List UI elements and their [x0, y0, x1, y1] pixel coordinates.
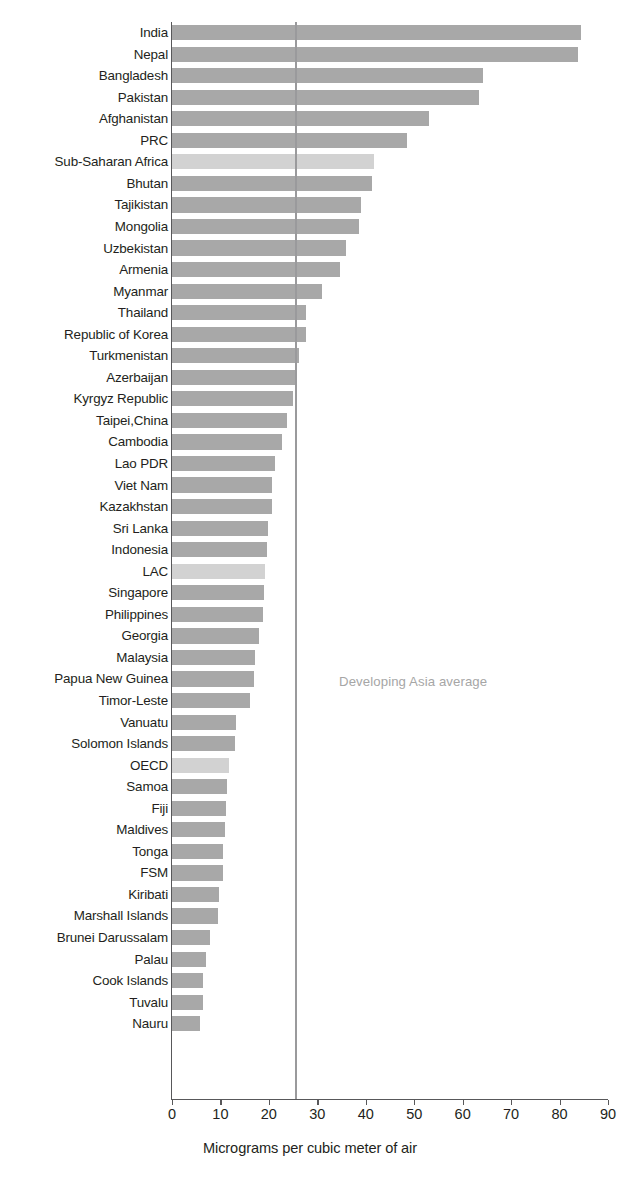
- developing-asia-average-line: [295, 22, 297, 1099]
- category-label: Samoa: [0, 780, 168, 793]
- bar-rows: IndiaNepalBangladeshPakistanAfghanistanP…: [0, 22, 620, 1035]
- bar: [172, 952, 206, 967]
- bar-row: Brunei Darussalam: [0, 927, 620, 949]
- bar: [172, 456, 275, 471]
- category-label: Armenia: [0, 263, 168, 276]
- bar: [172, 197, 361, 212]
- bar: [172, 327, 306, 342]
- bar-track: [172, 345, 620, 367]
- plot-area: IndiaNepalBangladeshPakistanAfghanistanP…: [0, 0, 620, 1180]
- bar-track: [172, 884, 620, 906]
- bar-row: Singapore: [0, 582, 620, 604]
- bar-track: [172, 862, 620, 884]
- bar: [172, 284, 322, 299]
- bar: [172, 413, 287, 428]
- bar: [172, 865, 223, 880]
- category-label: Cambodia: [0, 435, 168, 448]
- category-label: Fiji: [0, 802, 168, 815]
- x-tick-label: 90: [588, 1106, 620, 1123]
- bar-track: [172, 44, 620, 66]
- bar-row: Fiji: [0, 798, 620, 820]
- x-tick-label: 80: [540, 1106, 580, 1123]
- bar: [172, 693, 250, 708]
- bar-track: [172, 151, 620, 173]
- bar-row: Vanuatu: [0, 712, 620, 734]
- x-axis-title: Micrograms per cubic meter of air: [0, 1140, 620, 1157]
- bar: [172, 715, 236, 730]
- bar: [172, 434, 282, 449]
- bar-row: Kiribati: [0, 884, 620, 906]
- bar-track: [172, 582, 620, 604]
- bar-row: Mongolia: [0, 216, 620, 238]
- bar: [172, 262, 340, 277]
- category-label: Kazakhstan: [0, 500, 168, 513]
- bar-track: [172, 798, 620, 820]
- bar: [172, 240, 346, 255]
- bar-track: [172, 819, 620, 841]
- x-tick: [269, 1100, 270, 1105]
- bar-row: Tonga: [0, 841, 620, 863]
- bar-row: Timor-Leste: [0, 690, 620, 712]
- bar-track: [172, 216, 620, 238]
- bar-row: Pakistan: [0, 87, 620, 109]
- x-tick-label: 10: [200, 1106, 240, 1123]
- bar-track: [172, 625, 620, 647]
- bar: [172, 671, 254, 686]
- category-label: Palau: [0, 953, 168, 966]
- bar-track: [172, 496, 620, 518]
- bar-row: OECD: [0, 755, 620, 777]
- category-label: Thailand: [0, 306, 168, 319]
- bar-row: Solomon Islands: [0, 733, 620, 755]
- category-label: Myanmar: [0, 285, 168, 298]
- bar-track: [172, 65, 620, 87]
- category-label: Singapore: [0, 586, 168, 599]
- bar: [172, 801, 226, 816]
- bar-row: PRC: [0, 130, 620, 152]
- category-label: Mongolia: [0, 220, 168, 233]
- bar-row: India: [0, 22, 620, 44]
- bar-track: [172, 690, 620, 712]
- category-label: Vanuatu: [0, 716, 168, 729]
- category-label: Bhutan: [0, 177, 168, 190]
- bar-track: [172, 712, 620, 734]
- category-label: FSM: [0, 866, 168, 879]
- bar-track: [172, 733, 620, 755]
- bar-track: [172, 949, 620, 971]
- category-label: Philippines: [0, 608, 168, 621]
- bar-row: Philippines: [0, 604, 620, 626]
- bar-row: Papua New Guinea: [0, 668, 620, 690]
- x-axis-line: [171, 1099, 608, 1100]
- bar: [172, 1016, 200, 1031]
- bar: [172, 68, 483, 83]
- bar: [172, 25, 581, 40]
- x-tick-label: 50: [394, 1106, 434, 1123]
- category-label: Pakistan: [0, 91, 168, 104]
- bar-track: [172, 108, 620, 130]
- category-label: Lao PDR: [0, 457, 168, 470]
- category-label: Turkmenistan: [0, 349, 168, 362]
- category-label: Tonga: [0, 845, 168, 858]
- bar-chart: IndiaNepalBangladeshPakistanAfghanistanP…: [0, 0, 620, 1180]
- x-tick-label: 70: [491, 1106, 531, 1123]
- bar-track: [172, 302, 620, 324]
- category-label: LAC: [0, 565, 168, 578]
- bar-row: Myanmar: [0, 281, 620, 303]
- bar: [172, 348, 299, 363]
- x-tick-label: 20: [249, 1106, 289, 1123]
- category-label: Indonesia: [0, 543, 168, 556]
- bar: [172, 908, 218, 923]
- bar: [172, 133, 407, 148]
- bar: [172, 564, 265, 579]
- bar: [172, 779, 227, 794]
- bar: [172, 111, 429, 126]
- bar-track: [172, 604, 620, 626]
- bar: [172, 930, 210, 945]
- x-tick-label: 30: [297, 1106, 337, 1123]
- bar-row: LAC: [0, 561, 620, 583]
- bar: [172, 499, 272, 514]
- bar: [172, 391, 293, 406]
- bar: [172, 607, 263, 622]
- bar-track: [172, 970, 620, 992]
- bar: [172, 47, 578, 62]
- bar: [172, 995, 203, 1010]
